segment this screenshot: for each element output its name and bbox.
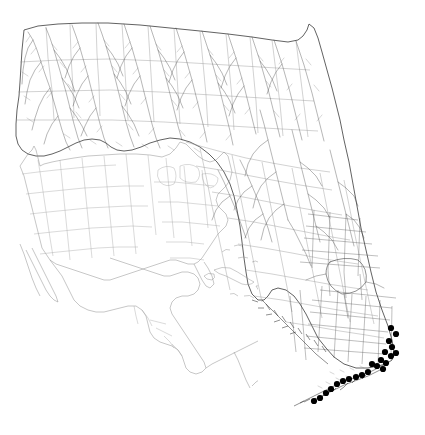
occurrence-dot [353,374,359,380]
occurrence-dot [317,395,323,401]
occurrence-dot [393,331,399,337]
north-america-inset-map [8,130,258,390]
occurrence-dot [334,381,340,387]
occurrence-dot [369,361,375,367]
occurrence-dot [382,349,388,355]
occurrence-dot [383,360,389,366]
occurrence-dot [359,372,365,378]
mexico-central-america-outline [20,244,206,374]
south-america-outline [206,338,258,388]
caribbean-islands [204,245,258,332]
occurrence-dot [365,369,371,375]
occurrence-dot [346,376,352,382]
occurrence-dot [323,390,329,396]
occurrence-dot [393,350,399,356]
occurrence-dot [389,344,395,350]
us-state-boundaries [22,154,220,260]
occurrence-dot [386,338,392,344]
species-distribution-map-figure [0,0,425,435]
occurrence-dot [328,386,334,392]
occurrence-dot [311,398,317,404]
florida-keys-chain [294,364,386,406]
occurrence-dot [340,378,346,384]
occurrence-dot [380,366,386,372]
occurrence-dot [388,325,394,331]
florida-on-inset [194,262,214,288]
central-america-borders [134,306,182,356]
